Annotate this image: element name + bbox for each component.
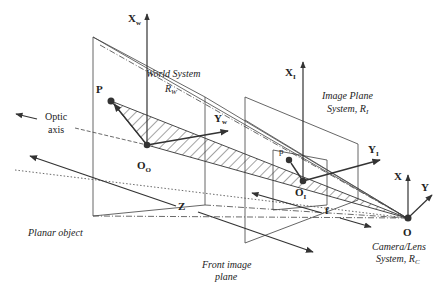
optic-axis-label-2: axis bbox=[48, 124, 64, 135]
image-y-axis bbox=[303, 160, 380, 181]
camera-origin bbox=[405, 215, 412, 222]
optic-axis-label-1: Optic bbox=[45, 111, 68, 122]
image-x-label: XI bbox=[285, 66, 296, 81]
world-system-label: World System bbox=[146, 68, 200, 79]
f-arrow-right bbox=[340, 218, 371, 227]
projection-triangle bbox=[111, 101, 407, 218]
z-label: Z bbox=[178, 200, 185, 212]
camera-system-label-2: System, RC bbox=[376, 253, 420, 266]
point-p-image-label: p bbox=[279, 146, 284, 156]
z-axis-left bbox=[30, 156, 176, 206]
camera-y-axis bbox=[408, 195, 432, 218]
camera-y-label: Y bbox=[421, 181, 429, 193]
z-axis-right bbox=[198, 212, 313, 252]
planar-object-label: Planar object bbox=[27, 227, 83, 238]
point-p-world bbox=[108, 98, 115, 105]
image-plane-label: Image Plane bbox=[321, 90, 373, 101]
camera-system-label-1: Camera/Lens bbox=[372, 241, 426, 252]
f-label: f bbox=[325, 204, 329, 216]
world-y-label: Yw bbox=[214, 112, 228, 126]
world-x-label: Xw bbox=[128, 12, 142, 27]
origin-image bbox=[300, 178, 307, 185]
point-p-image bbox=[286, 157, 292, 163]
image-y-label: YI bbox=[368, 143, 379, 158]
optic-axis-arrow bbox=[16, 114, 37, 119]
camera-origin-label: O bbox=[403, 226, 412, 238]
origin-object-label: OO bbox=[137, 159, 152, 174]
image-plane-symbol: System, RI bbox=[327, 103, 369, 116]
point-p-label: P bbox=[96, 83, 103, 95]
front-image-label-2: plane bbox=[214, 271, 238, 282]
origin-object bbox=[144, 142, 151, 149]
camera-model-diagram: Xw World System RW P Yw OO Optic axis XI… bbox=[0, 0, 443, 292]
front-image-label-1: Front image bbox=[201, 259, 252, 270]
camera-x-label: X bbox=[394, 170, 402, 182]
